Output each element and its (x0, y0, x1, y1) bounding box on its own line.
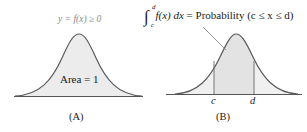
probability-text: = Probability (c ≤ x ≤ d) (187, 9, 294, 21)
pointer-line (203, 27, 226, 50)
panel-b-title: ∫dc f(x) dx = Probability (c ≤ x ≤ d) (144, 4, 293, 24)
upper-limit: d (152, 3, 156, 11)
panel-a-area-fill (15, 34, 142, 96)
lower-limit: c (151, 21, 154, 29)
c-label: c (211, 95, 216, 106)
integrand: f(x) dx (155, 9, 183, 21)
panel-b-caption: (B) (216, 111, 230, 122)
panel-a-graph (14, 34, 143, 97)
d-label: d (250, 95, 255, 106)
area-label: Area = 1 (60, 73, 99, 85)
panel-b-probability-region (175, 34, 298, 94)
integral-symbol: ∫ (144, 7, 149, 26)
panel-a-caption: (A) (69, 111, 84, 122)
panel-b-graph (166, 27, 302, 95)
panel-a-title: y = f(x) ≥ 0 (58, 14, 101, 24)
